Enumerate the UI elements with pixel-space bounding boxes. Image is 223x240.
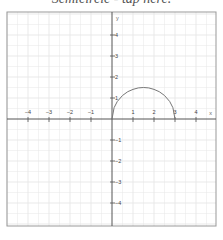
y-tick-label: 2 (115, 74, 118, 80)
y-tick-label: −1 (115, 137, 121, 143)
chart-plot[interactable]: −4−3−2−11234−4−3−2−11234xy (0, 0, 223, 240)
x-tick-label: 1 (131, 109, 134, 115)
x-axis-label: x (209, 110, 212, 116)
y-tick-label: −3 (115, 179, 121, 185)
x-tick-label: −4 (25, 109, 31, 115)
y-tick-label: 3 (115, 53, 118, 59)
y-tick-label: −4 (115, 200, 121, 206)
x-tick-label: 4 (194, 109, 197, 115)
y-axis-label: y (116, 15, 119, 21)
y-tick-label: −2 (115, 158, 121, 164)
x-tick-label: −1 (88, 109, 94, 115)
y-tick-label: 1 (115, 95, 118, 101)
y-tick-label: 4 (115, 32, 118, 38)
x-tick-label: −3 (46, 109, 52, 115)
x-tick-label: −2 (67, 109, 73, 115)
x-tick-label: 2 (152, 109, 155, 115)
